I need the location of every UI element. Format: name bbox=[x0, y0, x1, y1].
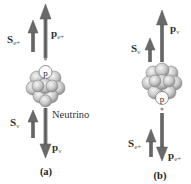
spin-positron-arrow-b bbox=[146, 129, 156, 157]
neutrino-label-a: Neutrino bbox=[52, 109, 89, 120]
caption-a: (a) bbox=[40, 166, 53, 178]
spin-neutrino-label-a: Sν bbox=[10, 116, 19, 130]
momentum-positron-label-a: pe+ bbox=[51, 27, 64, 41]
proton-label-b: p bbox=[160, 94, 165, 104]
caption-b: (b) bbox=[154, 170, 167, 182]
spin-neutrino-arrow-b bbox=[145, 38, 155, 62]
spin-positron-label-a: Se+ bbox=[7, 33, 20, 47]
spin-neutrino-arrow-a bbox=[28, 110, 38, 138]
momentum-neutrino-arrow-a bbox=[40, 108, 51, 158]
momentum-neutrino-arrow-b bbox=[157, 10, 168, 62]
spin-positron-arrow-a bbox=[28, 20, 38, 52]
panel-b: pν Sν p Se+ pe+ bbox=[128, 10, 182, 182]
momentum-positron-arrow-b bbox=[157, 113, 168, 161]
proton-label-a: p bbox=[43, 68, 48, 78]
positron-dot-b bbox=[160, 107, 163, 110]
momentum-positron-label-b: pe+ bbox=[168, 149, 181, 163]
panel-a: Se+ pe+ p Sν Neutrino pν bbox=[7, 4, 89, 178]
decay-diagram: Se+ pe+ p Sν Neutrino pν bbox=[0, 0, 191, 184]
spin-neutrino-label-b: Sν bbox=[131, 42, 140, 56]
spin-positron-label-b: Se+ bbox=[128, 137, 141, 151]
nucleus-b: p bbox=[142, 63, 182, 105]
momentum-neutrino-label-a: pν bbox=[52, 141, 61, 155]
momentum-positron-arrow-a bbox=[40, 4, 51, 58]
positron-dot-a bbox=[44, 57, 47, 60]
nucleus-a: p bbox=[26, 66, 65, 108]
momentum-neutrino-label-b: pν bbox=[170, 22, 179, 36]
